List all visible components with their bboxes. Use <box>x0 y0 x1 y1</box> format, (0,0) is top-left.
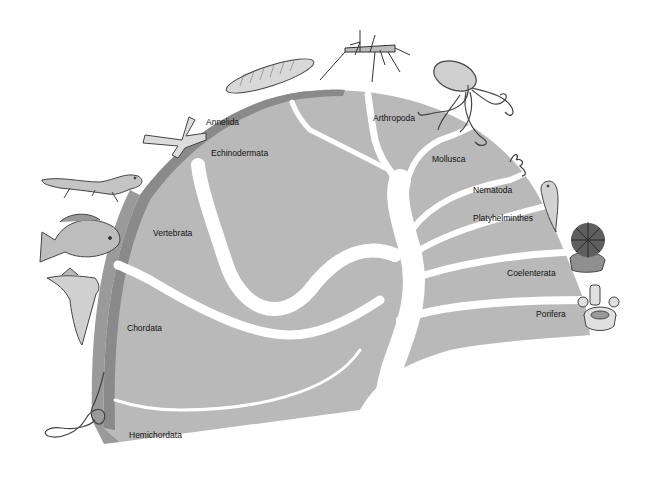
label-mollusca: Mollusca <box>432 155 466 164</box>
label-vertebrata: Vertebrata <box>153 229 192 238</box>
label-arthropoda: Arthropoda <box>373 114 415 123</box>
label-porifera: Porifera <box>536 310 566 319</box>
label-nematoda: Nematoda <box>473 186 512 195</box>
label-echinodermata: Echinodermata <box>211 149 268 158</box>
mosquito-illustration <box>320 30 410 82</box>
label-hemichordata: Hemichordata <box>129 431 182 440</box>
label-chordata: Chordata <box>127 324 162 333</box>
label-annelida: Annelida <box>206 118 239 127</box>
fan-graphic <box>0 0 655 486</box>
sea-anemone-illustration <box>570 222 605 272</box>
bird-illustration <box>47 268 99 345</box>
phylogeny-diagram: Annelida Arthropoda Echinodermata Mollus… <box>0 0 655 486</box>
label-platyhelminthes: Platyhelminthes <box>473 214 533 223</box>
label-coelenterata: Coelenterata <box>507 269 556 278</box>
